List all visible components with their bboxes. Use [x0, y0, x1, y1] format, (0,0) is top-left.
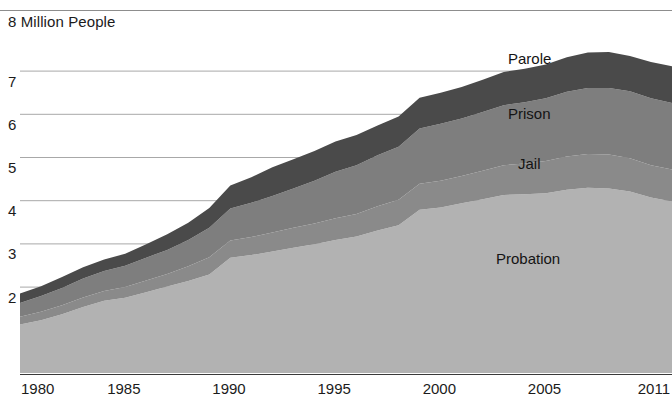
- x-axis-rule: [20, 374, 672, 375]
- area-series-group: [20, 52, 672, 373]
- x-tick-label: 1980: [21, 380, 54, 397]
- x-tick-label: 1995: [317, 380, 350, 397]
- x-tick-label: 1990: [212, 380, 245, 397]
- series-label-jail: Jail: [518, 155, 541, 172]
- x-tick-label: 2011: [638, 380, 670, 397]
- series-label-parole: Parole: [508, 50, 551, 67]
- plot-area: [0, 0, 672, 400]
- y-tick-label: 3: [8, 245, 16, 262]
- series-label-prison: Prison: [508, 105, 551, 122]
- stacked-area-chart: 8 Million People 8765432 198019851990199…: [0, 0, 672, 400]
- plot-svg: [0, 0, 672, 400]
- x-tick-label: 2000: [423, 380, 456, 397]
- series-label-probation: Probation: [496, 250, 560, 267]
- y-tick-label: 2: [8, 289, 16, 306]
- x-tick-label: 2005: [528, 380, 561, 397]
- y-tick-label: 5: [8, 159, 16, 176]
- x-axis: 1980198519901995200020052011: [0, 374, 672, 400]
- x-tick-label: 1985: [107, 380, 140, 397]
- y-tick-label: 7: [8, 73, 16, 90]
- y-tick-label: 6: [8, 116, 16, 133]
- y-tick-label: 4: [8, 202, 16, 219]
